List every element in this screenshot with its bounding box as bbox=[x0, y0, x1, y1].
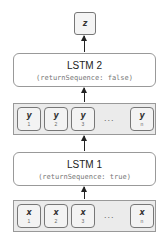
lstm1-title: LSTM 1 bbox=[14, 160, 155, 170]
x-cell-n: x n bbox=[130, 204, 154, 228]
y-ellipsis: ... bbox=[104, 113, 115, 123]
y-cell-var: y bbox=[139, 112, 144, 120]
x-ellipsis: ... bbox=[104, 210, 115, 220]
x-cell-var: x bbox=[139, 209, 144, 217]
x-cell-var: x bbox=[80, 209, 85, 217]
x-cell-2: x 2 bbox=[44, 204, 68, 228]
x-sequence-row: x 1 x 2 x 3 ... x n bbox=[13, 200, 156, 232]
lstm2-subtitle: (returnSequence: false) bbox=[14, 74, 155, 82]
y-sequence-row: y 1 y 2 y 3 ... y n bbox=[13, 103, 156, 135]
y-cell-index: n bbox=[141, 121, 144, 127]
arrow-lstm1-to-y bbox=[84, 136, 85, 151]
y-cell-index: 2 bbox=[55, 121, 58, 127]
x-cell-index: 3 bbox=[82, 218, 85, 224]
arrow-lstm2-to-z bbox=[84, 36, 85, 52]
y-cell-var: y bbox=[80, 112, 85, 120]
y-cell-2: y 2 bbox=[44, 107, 68, 131]
output-z-label: z bbox=[83, 20, 88, 28]
arrow-y-to-lstm2 bbox=[84, 88, 85, 102]
lstm1-layer: LSTM 1 (returnSequence: true) bbox=[13, 152, 156, 186]
x-cell-index: 1 bbox=[28, 218, 31, 224]
output-z-node: z bbox=[74, 12, 96, 35]
x-cell-index: 2 bbox=[55, 218, 58, 224]
lstm2-layer: LSTM 2 (returnSequence: false) bbox=[13, 53, 156, 87]
y-cell-index: 1 bbox=[28, 121, 31, 127]
x-cell-var: x bbox=[26, 209, 31, 217]
y-cell-var: y bbox=[53, 112, 58, 120]
x-cell-index: n bbox=[141, 218, 144, 224]
lstm1-subtitle: (returnSequence: true) bbox=[14, 173, 155, 181]
y-cell-n: y n bbox=[130, 107, 154, 131]
lstm2-title: LSTM 2 bbox=[14, 61, 155, 71]
y-cell-index: 3 bbox=[82, 121, 85, 127]
y-cell-var: y bbox=[26, 112, 31, 120]
x-cell-var: x bbox=[53, 209, 58, 217]
x-cell-1: x 1 bbox=[17, 204, 41, 228]
x-cell-3: x 3 bbox=[71, 204, 95, 228]
y-cell-1: y 1 bbox=[17, 107, 41, 131]
arrow-x-to-lstm1 bbox=[84, 187, 85, 199]
y-cell-3: y 3 bbox=[71, 107, 95, 131]
